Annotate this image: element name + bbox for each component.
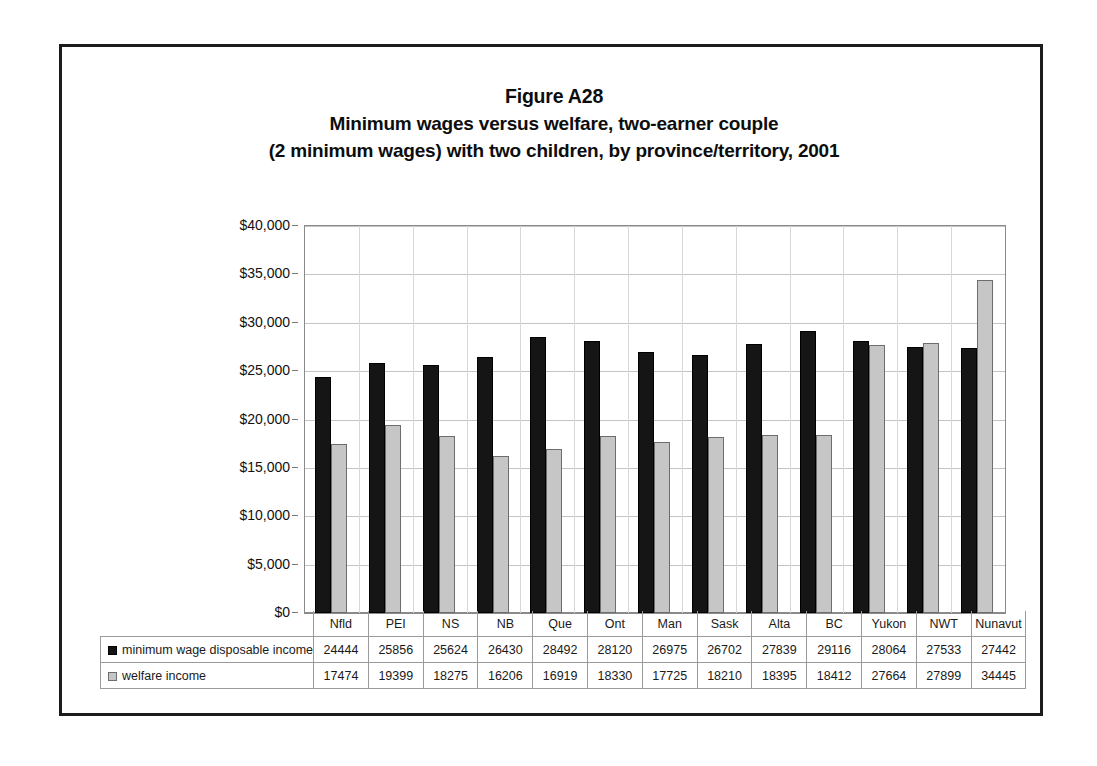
bar-group: [843, 226, 897, 613]
table-cell-value: 18275: [423, 663, 478, 689]
table-cell-value: 27442: [971, 637, 1026, 663]
y-axis-tick-mark: [292, 515, 298, 516]
bar-minimum-wage: [853, 341, 869, 613]
table-column-header: NB: [478, 611, 533, 637]
y-axis-tick-label: $25,000: [239, 362, 290, 378]
y-axis-tick-mark: [292, 564, 298, 565]
bar-welfare: [600, 436, 616, 613]
table-cell-value: 24444: [314, 637, 369, 663]
table-cell-value: 27664: [862, 663, 917, 689]
bar-group: [736, 226, 790, 613]
legend-label-minimum-wage: minimum wage disposable income: [122, 643, 313, 657]
chart-area: Figure A28 Minimum wages versus welfare,…: [62, 47, 1046, 719]
table-cell-value: 25856: [368, 637, 423, 663]
table-column-header: Nfld: [314, 611, 369, 637]
bar-group: [413, 226, 467, 613]
figure-title-block: Figure A28 Minimum wages versus welfare,…: [62, 83, 1046, 164]
table-header-corner: [101, 611, 314, 637]
bar-welfare: [385, 425, 401, 613]
bar-welfare: [654, 442, 670, 613]
bar-minimum-wage: [530, 337, 546, 613]
table-cell-value: 27899: [916, 663, 971, 689]
y-axis-tick-mark: [292, 273, 298, 274]
table-cell-value: 28064: [862, 637, 917, 663]
table-cell-value: 16919: [533, 663, 588, 689]
figure-title-line-2: (2 minimum wages) with two children, by …: [62, 137, 1046, 164]
table-column-header: Alta: [752, 611, 807, 637]
bar-welfare: [493, 456, 509, 613]
y-axis-tick-mark: [292, 322, 298, 323]
bar-group: [359, 226, 413, 613]
legend-row-label-welfare: welfare income: [101, 663, 314, 689]
bar-welfare: [923, 343, 939, 613]
table-cell-value: 27533: [916, 637, 971, 663]
bar-minimum-wage: [800, 331, 816, 613]
bar-welfare: [977, 280, 993, 613]
y-axis-tick-mark: [292, 419, 298, 420]
table-cell-value: 17474: [314, 663, 369, 689]
gray-square-icon: [108, 672, 117, 681]
bar-welfare: [546, 449, 562, 613]
figure-frame: Figure A28 Minimum wages versus welfare,…: [59, 44, 1043, 716]
table-cell-value: 27839: [752, 637, 807, 663]
y-axis-tick-mark: [292, 467, 298, 468]
figure-number: Figure A28: [62, 83, 1046, 110]
table-column-header: Que: [533, 611, 588, 637]
legend-label-welfare: welfare income: [122, 669, 206, 683]
y-axis-tick-label: $40,000: [239, 217, 290, 233]
bar-welfare: [816, 435, 832, 613]
table-cell-value: 18210: [697, 663, 752, 689]
bar-welfare: [331, 444, 347, 613]
table-cell-value: 25624: [423, 637, 478, 663]
table-row-welfare: welfare income 1747419399182751620616919…: [101, 663, 1026, 689]
bar-welfare: [869, 345, 885, 613]
bar-group: [897, 226, 951, 613]
bar-group: [520, 226, 574, 613]
table-column-header: Yukon: [862, 611, 917, 637]
table-cell-value: 34445: [971, 663, 1026, 689]
table-column-header: Nunavut: [971, 611, 1026, 637]
table-cell-value: 26430: [478, 637, 533, 663]
bar-minimum-wage: [423, 365, 439, 613]
table-cell-value: 26702: [697, 637, 752, 663]
y-axis-tick-mark: [292, 225, 298, 226]
bar-group: [682, 226, 736, 613]
table-row-minimum-wage: minimum wage disposable income 244442585…: [101, 637, 1026, 663]
table-column-header: NWT: [916, 611, 971, 637]
table-cell-value: 28120: [588, 637, 643, 663]
table-column-header: Sask: [697, 611, 752, 637]
table-cell-value: 18412: [807, 663, 862, 689]
y-axis: $0$5,000$10,000$15,000$20,000$25,000$30,…: [212, 225, 298, 614]
legend-row-label-minimum-wage: minimum wage disposable income: [101, 637, 314, 663]
bar-group: [628, 226, 682, 613]
bar-minimum-wage: [477, 357, 493, 613]
bar-minimum-wage: [907, 347, 923, 613]
bar-group: [467, 226, 521, 613]
y-axis-tick-label: $35,000: [239, 265, 290, 281]
plot-area: [304, 225, 1006, 614]
bar-welfare: [439, 436, 455, 613]
table-column-header: BC: [807, 611, 862, 637]
bar-minimum-wage: [584, 341, 600, 613]
figure-title-line-1: Minimum wages versus welfare, two-earner…: [62, 110, 1046, 137]
data-table: NfldPEINSNBQueOntManSaskAltaBCYukonNWTNu…: [100, 611, 1026, 689]
table-cell-value: 29116: [807, 637, 862, 663]
table-cell-value: 18330: [588, 663, 643, 689]
y-axis-tick-label: $5,000: [247, 556, 290, 572]
bar-welfare: [762, 435, 778, 613]
bar-group: [574, 226, 628, 613]
table-cell-value: 26975: [642, 637, 697, 663]
table-column-header: Man: [642, 611, 697, 637]
y-axis-tick-label: $20,000: [239, 411, 290, 427]
table-column-header: Ont: [588, 611, 643, 637]
table-cell-value: 17725: [642, 663, 697, 689]
bar-minimum-wage: [692, 355, 708, 613]
black-square-icon: [108, 646, 117, 655]
table-cell-value: 18395: [752, 663, 807, 689]
table-header-row: NfldPEINSNBQueOntManSaskAltaBCYukonNWTNu…: [101, 611, 1026, 637]
bar-minimum-wage: [638, 352, 654, 613]
bar-minimum-wage: [369, 363, 385, 613]
table-cell-value: 16206: [478, 663, 533, 689]
bar-group: [305, 226, 359, 613]
y-axis-tick-label: $15,000: [239, 459, 290, 475]
